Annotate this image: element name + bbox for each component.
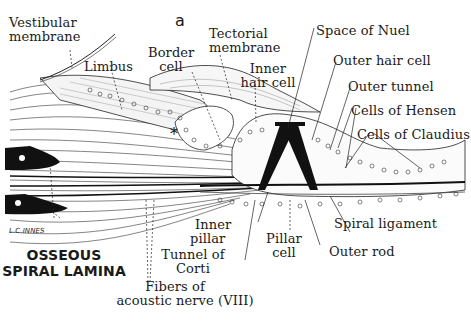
label-inner-pillar-line2: pillar <box>190 232 225 245</box>
label-osseous-spiral-lamina-line1: OSSEOUS <box>0 248 128 263</box>
label-border-cell-line2: cell <box>148 60 194 73</box>
organ-of-corti-diagram: a Vestibular membrane Limbus Border cell… <box>0 0 471 322</box>
label-space-of-nuel: Space of Nuel <box>316 24 410 37</box>
label-inner-hair-cell-line1: Inner <box>240 62 296 75</box>
label-tectorial-membrane-line2: membrane <box>209 41 281 54</box>
inner-sulcus-asterisk: * <box>170 128 178 141</box>
label-outer-rod: Outer rod <box>329 245 395 258</box>
label-tunnel-of-corti-line2: Corti <box>158 262 228 275</box>
label-spiral-ligament: Spiral ligament <box>334 217 437 230</box>
label-border-cell-line1: Border <box>148 46 194 59</box>
label-pillar-cell-line2: cell <box>262 246 306 259</box>
label-vestibular-membrane-line1: Vestibular <box>9 16 77 29</box>
label-inner-hair-cell-line2: hair cell <box>240 76 296 89</box>
label-cells-of-hensen: Cells of Hensen <box>351 104 456 117</box>
artist-signature: L.C.INNES <box>9 225 45 238</box>
label-outer-hair-cell: Outer hair cell <box>333 54 431 67</box>
label-pillar-cell-line1: Pillar <box>262 232 306 245</box>
label-fibers-of-acoustic-nerve-line2: acoustic nerve (VIII) <box>110 294 260 307</box>
label-cells-of-claudius: Cells of Claudius <box>357 128 470 141</box>
label-tectorial-membrane-line1: Tectorial <box>209 27 268 40</box>
label-osseous-spiral-lamina-line2: SPIRAL LAMINA <box>0 264 128 279</box>
label-tunnel-of-corti-line1: Tunnel of <box>158 248 228 261</box>
label-outer-tunnel: Outer tunnel <box>348 80 434 93</box>
label-vestibular-membrane-line2: membrane <box>9 30 81 43</box>
panel-letter: a <box>175 14 185 27</box>
label-limbus: Limbus <box>84 60 133 73</box>
label-fibers-of-acoustic-nerve-line1: Fibers of <box>110 280 240 293</box>
label-inner-pillar-line1: Inner <box>195 218 231 231</box>
